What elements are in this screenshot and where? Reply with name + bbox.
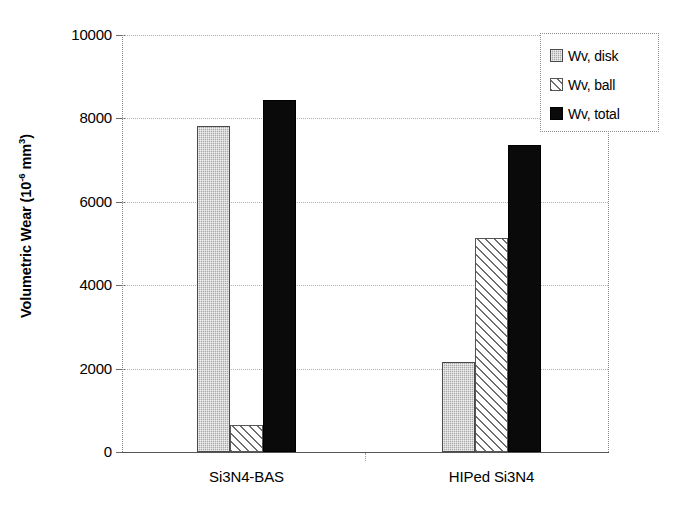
- bar-chart: Volumetric Wear (10-6 mm3) 0200040006000…: [0, 0, 675, 509]
- y-axis-title-close: ): [18, 134, 34, 139]
- y-axis-title-unit: mm: [18, 144, 34, 174]
- legend-entry-ball: Wv, ball: [550, 70, 658, 99]
- legend-swatch-total-icon: [550, 107, 563, 120]
- y-axis-title: Volumetric Wear (10-6 mm3): [18, 66, 34, 386]
- y-tick-label: 10000: [44, 27, 112, 42]
- bar: [230, 425, 263, 452]
- legend-swatch-disk-icon: [550, 49, 563, 62]
- x-axis-label: HIPed Si3N4: [412, 468, 572, 485]
- y-tick-label: 6000: [44, 194, 112, 209]
- y-axis-title-exponent: -6: [16, 174, 27, 182]
- bar: [197, 126, 230, 452]
- y-tick-label: 4000: [44, 277, 112, 292]
- x-axis-label: Si3N4-BAS: [167, 468, 327, 485]
- legend: Wv, disk Wv, ball Wv, total: [540, 33, 659, 132]
- legend-label-ball: Wv, ball: [568, 77, 615, 93]
- gridline: [122, 35, 608, 36]
- legend-label-disk: Wv, disk: [568, 48, 618, 64]
- legend-entry-disk: Wv, disk: [550, 41, 658, 70]
- legend-swatch-ball-icon: [550, 78, 563, 91]
- legend-entry-total: Wv, total: [550, 99, 658, 128]
- y-tick-label: 8000: [44, 110, 112, 125]
- gridline: [122, 118, 608, 119]
- y-tick-label: 0: [44, 444, 112, 459]
- bar: [263, 100, 296, 452]
- x-tick-mark: [365, 453, 366, 461]
- bar: [475, 238, 508, 452]
- y-axis-title-unit-exponent: 3: [16, 139, 27, 144]
- y-axis-line: [122, 35, 123, 452]
- legend-label-total: Wv, total: [568, 106, 620, 122]
- y-axis-title-text: Volumetric Wear (10: [18, 182, 34, 318]
- bar: [508, 145, 541, 452]
- bar: [442, 362, 475, 452]
- y-tick-label: 2000: [44, 361, 112, 376]
- plot-area: [122, 35, 608, 452]
